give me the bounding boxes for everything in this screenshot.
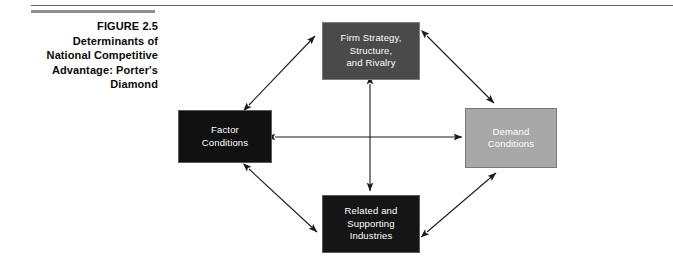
node-label-line-2: Conditions	[488, 138, 534, 151]
node-demand-conditions[interactable]: Demand Conditions	[465, 108, 557, 168]
node-label-line-1: Factor	[211, 124, 239, 137]
connector-factor-to-firm	[249, 36, 315, 105]
node-label-line-3: Industries	[350, 230, 393, 243]
figure-container: FIGURE 2.5 Determinants of National Comp…	[0, 0, 673, 271]
node-label-line-2: Supporting	[347, 218, 394, 231]
node-factor-conditions[interactable]: Factor Conditions	[178, 110, 272, 163]
node-label-line-1: Firm Strategy,	[340, 32, 401, 45]
node-label-line-1: Related and	[345, 205, 398, 218]
node-label-line-2: Structure,	[350, 45, 393, 58]
node-related-and-supporting-industries[interactable]: Related and Supporting Industries	[322, 195, 420, 253]
node-label-line-2: Conditions	[202, 137, 248, 150]
connector-related-to-demand	[427, 173, 496, 232]
node-label-line-3: and Rivalry	[346, 57, 395, 70]
node-label-line-1: Demand	[493, 126, 530, 139]
connector-firm-to-demand	[427, 36, 494, 103]
connector-factor-to-related	[249, 169, 317, 232]
node-firm-strategy-structure-and-rivalry[interactable]: Firm Strategy, Structure, and Rivalry	[322, 22, 420, 80]
